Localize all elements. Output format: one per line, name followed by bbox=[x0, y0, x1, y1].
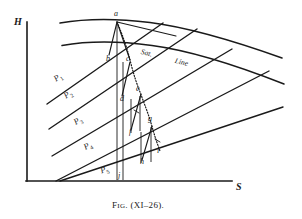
temperature-curve-upper bbox=[60, 20, 282, 58]
axis-group bbox=[26, 22, 232, 181]
isobar-line-p4 bbox=[56, 71, 269, 181]
y-axis-label: H bbox=[14, 17, 22, 27]
point-label-b: b bbox=[106, 55, 110, 63]
point-label-c: c bbox=[126, 55, 130, 63]
figure-caption-rest: . (XI–26). bbox=[125, 200, 164, 210]
temperature-curves bbox=[60, 20, 284, 84]
point-label-i: i bbox=[157, 147, 159, 155]
point-label-a: a bbox=[114, 10, 118, 18]
expansion-tick-marks bbox=[134, 110, 160, 142]
point-label-g: g bbox=[148, 115, 152, 123]
isobar-line-p5 bbox=[60, 107, 283, 181]
isobar-line-p3 bbox=[52, 49, 232, 156]
point-label-h: h bbox=[140, 158, 144, 166]
point-label-f: f bbox=[129, 128, 131, 136]
x-axis-label: S bbox=[236, 182, 242, 192]
figure-container: H S Sat. Line P1 P2 P3 P4 P5 a b c d e f… bbox=[0, 0, 302, 219]
figure-caption: FIG. (XI–26). bbox=[112, 200, 164, 210]
point-label-d: d bbox=[120, 95, 124, 103]
point-label-e: e bbox=[136, 85, 140, 93]
point-label-j: j bbox=[118, 172, 120, 180]
mollier-diagram bbox=[0, 0, 302, 219]
segment-e-f bbox=[131, 94, 141, 130]
segment-a-b bbox=[109, 22, 117, 55]
segment-g-h bbox=[142, 126, 152, 160]
temperature-curve-lower bbox=[62, 42, 284, 84]
tick-mark bbox=[155, 139, 160, 142]
